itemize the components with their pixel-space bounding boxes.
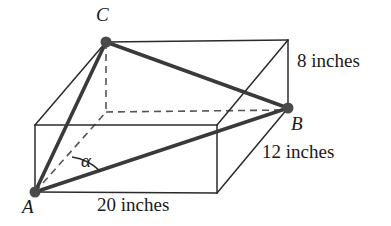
vertex-dot-c bbox=[101, 37, 112, 48]
dimension-label-width: 20 inches bbox=[97, 194, 169, 216]
angle-label-alpha: α bbox=[81, 150, 91, 172]
vertex-label-c: C bbox=[96, 4, 109, 26]
diagonal-a-to-b bbox=[35, 108, 288, 192]
diagram-canvas bbox=[0, 0, 391, 226]
dashed-hidden-edges bbox=[35, 42, 288, 192]
diagonal-a-to-c bbox=[35, 42, 106, 192]
dimension-label-height: 8 inches bbox=[297, 50, 360, 72]
dimension-label-depth: 12 inches bbox=[262, 141, 334, 163]
top-left-slant-edge bbox=[35, 42, 106, 125]
vertex-label-b: B bbox=[291, 113, 303, 135]
vertex-label-a: A bbox=[22, 196, 34, 218]
vertex-dot-b bbox=[283, 103, 294, 114]
bold-diagonals bbox=[35, 42, 288, 192]
diagonal-c-to-b bbox=[106, 42, 288, 108]
top-back-edge bbox=[106, 40, 288, 42]
hidden-bottom-back-edge bbox=[106, 110, 288, 112]
front-bottom-edge bbox=[35, 192, 217, 193]
geometry-figure: C B A α 8 inches 12 inches 20 inches bbox=[0, 0, 391, 226]
